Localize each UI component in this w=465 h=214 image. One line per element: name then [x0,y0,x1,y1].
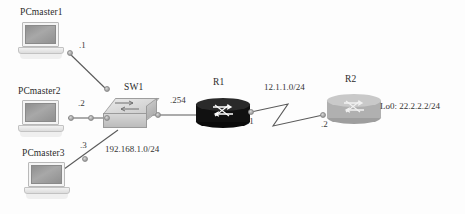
laptop-screen [25,103,56,122]
laptop-lid [22,100,59,125]
node-pcmaster3[interactable] [24,162,70,200]
router-arrows-icon [209,103,237,119]
interface-label-r2-wan: .2 [321,119,328,129]
interface-label-pcmaster1: .1 [79,40,86,50]
node-r1[interactable] [196,92,250,128]
connection-dot [320,112,326,118]
network-label-lan: 192.168.1.0/24 [105,144,159,154]
node-label-pcmaster1: PCmaster1 [20,7,63,17]
laptop-base [24,187,70,194]
node-label-r1: R1 [213,77,224,87]
link-r1-r2-serial [251,104,323,126]
laptop-shadow [26,194,68,199]
connection-dot [68,115,74,121]
link-pcmaster1-sw1 [69,53,106,89]
laptop-base [18,47,64,54]
node-r2[interactable] [327,88,381,124]
switch-arrows-icon [113,100,141,112]
laptop-lid [22,22,59,47]
node-pcmaster1[interactable] [18,22,64,60]
interface-label-pcmaster2: .2 [78,98,85,108]
node-label-sw1: SW1 [124,82,143,92]
loopback-label-r2: Lo0: 22.2.2.2/24 [380,101,440,111]
connection-dot [82,156,88,162]
interface-label-r1-wan: .1 [247,116,254,126]
router-body [327,94,381,118]
interface-label-r1-lan: .254 [170,95,186,105]
interface-label-pcmaster3: .3 [80,140,87,150]
switch-front-face [103,113,147,128]
connection-dot [155,112,161,118]
laptop-screen [25,25,56,44]
node-label-pcmaster2: PCmaster2 [18,86,61,96]
node-pcmaster2[interactable] [18,100,64,138]
laptop-shadow [20,54,62,59]
connection-dot [104,115,110,121]
network-label-wan: 12.1.1.0/24 [264,82,305,92]
connection-dot [248,109,254,115]
laptop-lid [28,162,65,187]
node-label-r2: R2 [345,74,356,84]
laptop-base [18,125,64,132]
connection-dot [104,86,110,92]
connection-dot [88,115,94,121]
network-diagram-canvas: PCmaster1 PCmaster2 PCmaster3 SW1 [0,0,465,214]
node-sw1[interactable] [103,98,157,132]
laptop-shadow [20,132,62,137]
laptop-screen [31,165,62,184]
node-label-pcmaster3: PCmaster3 [22,148,65,158]
router-body [196,98,250,122]
connection-dot [67,50,73,56]
router-arrows-icon [340,99,368,115]
